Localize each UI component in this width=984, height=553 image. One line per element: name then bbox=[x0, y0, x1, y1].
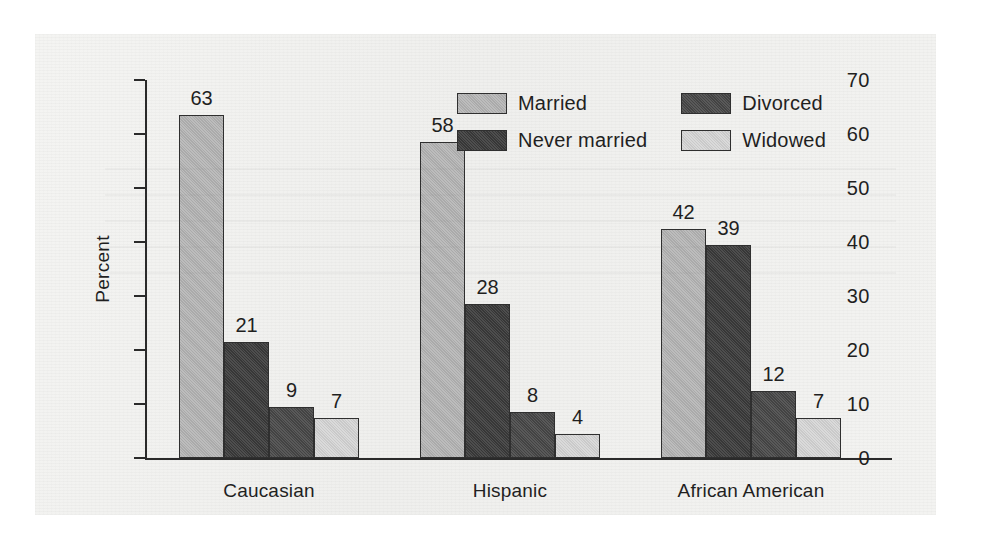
x-axis-label-hispanic: Hispanic bbox=[473, 480, 547, 502]
bar-value-label: 7 bbox=[813, 390, 824, 413]
bar-halftone-texture bbox=[466, 305, 509, 457]
bar-halftone-texture bbox=[707, 246, 750, 457]
bar-never-married-caucasian bbox=[224, 342, 269, 458]
bar-value-label: 8 bbox=[527, 384, 538, 407]
legend-item-married[interactable]: Married bbox=[457, 92, 647, 115]
legend-item-divorced[interactable]: Divorced bbox=[681, 92, 826, 115]
legend-label: Never married bbox=[518, 129, 647, 152]
bar-halftone-texture bbox=[315, 419, 358, 458]
legend-label: Married bbox=[518, 92, 587, 115]
bar-halftone-texture bbox=[752, 392, 795, 458]
bar-halftone-texture bbox=[270, 408, 313, 457]
legend-item-never-married[interactable]: Never married bbox=[457, 129, 647, 152]
legend-swatch-never-married bbox=[457, 130, 507, 151]
legend-swatch-widowed bbox=[681, 130, 731, 151]
legend-label: Widowed bbox=[742, 129, 826, 152]
legend-swatch-texture bbox=[682, 94, 730, 113]
bar-never-married-hispanic bbox=[465, 304, 510, 458]
bar-value-label: 7 bbox=[331, 390, 342, 413]
legend-item-widowed[interactable]: Widowed bbox=[681, 129, 826, 152]
bar-divorced-caucasian bbox=[269, 407, 314, 458]
legend-label: Divorced bbox=[742, 92, 823, 115]
chart-page: Percent 010203040506070 6321975828844239… bbox=[0, 0, 984, 553]
bar-value-label: 63 bbox=[190, 87, 212, 110]
bar-value-label: 21 bbox=[235, 314, 257, 337]
y-axis-title: Percent bbox=[92, 235, 114, 303]
legend-swatch-married bbox=[457, 93, 507, 114]
bar-halftone-texture bbox=[225, 343, 268, 457]
bar-halftone-texture bbox=[662, 230, 705, 458]
y-tick-10 bbox=[134, 403, 145, 405]
y-tick-70 bbox=[134, 79, 145, 81]
chart-legend: MarriedDivorcedNever marriedWidowed bbox=[457, 92, 826, 152]
bar-halftone-texture bbox=[511, 413, 554, 457]
bar-value-label: 39 bbox=[717, 217, 739, 240]
legend-swatch-divorced bbox=[681, 93, 731, 114]
bar-value-label: 12 bbox=[762, 363, 784, 386]
legend-swatch-texture bbox=[682, 131, 730, 150]
bar-widowed-hispanic bbox=[555, 434, 600, 458]
bar-divorced-african-american bbox=[751, 391, 796, 459]
bar-married-caucasian bbox=[179, 115, 224, 458]
bar-married-african-american bbox=[661, 229, 706, 459]
y-tick-50 bbox=[134, 187, 145, 189]
scanned-figure-area: Percent 010203040506070 6321975828844239… bbox=[35, 34, 936, 515]
bar-halftone-texture bbox=[421, 143, 464, 457]
x-axis-line bbox=[145, 458, 892, 460]
bar-value-label: 9 bbox=[286, 379, 297, 402]
x-axis-label-african-american: African American bbox=[678, 480, 825, 502]
bar-never-married-african-american bbox=[706, 245, 751, 458]
bar-widowed-african-american bbox=[796, 418, 841, 459]
bar-value-label: 58 bbox=[431, 114, 453, 137]
x-axis-label-caucasian: Caucasian bbox=[223, 480, 315, 502]
y-tick-0 bbox=[134, 457, 145, 459]
legend-swatch-texture bbox=[458, 94, 506, 113]
y-tick-40 bbox=[134, 241, 145, 243]
legend-swatch-texture bbox=[458, 131, 506, 150]
bar-married-hispanic bbox=[420, 142, 465, 458]
plot-area: Percent 010203040506070 6321975828844239… bbox=[145, 80, 890, 458]
bar-widowed-caucasian bbox=[314, 418, 359, 459]
bar-halftone-texture bbox=[180, 116, 223, 457]
bar-value-label: 4 bbox=[572, 406, 583, 429]
bar-value-label: 42 bbox=[672, 201, 694, 224]
y-tick-60 bbox=[134, 133, 145, 135]
y-tick-30 bbox=[134, 295, 145, 297]
bar-divorced-hispanic bbox=[510, 412, 555, 458]
bar-halftone-texture bbox=[556, 435, 599, 457]
bar-halftone-texture bbox=[797, 419, 840, 458]
bar-value-label: 28 bbox=[476, 276, 498, 299]
y-tick-20 bbox=[134, 349, 145, 351]
